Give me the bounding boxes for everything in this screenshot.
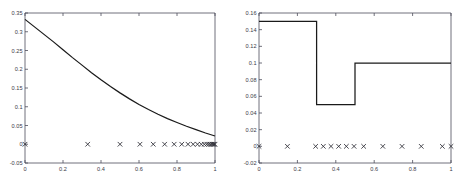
ytick-label: 0.08 [246, 77, 257, 83]
x-marker [202, 142, 207, 147]
x-marker [85, 142, 90, 147]
left-plot-panel: -0.0500.050.10.150.20.250.30.35 00.20.40… [0, 0, 232, 182]
x-marker [361, 144, 366, 149]
left-x-markers [23, 142, 218, 147]
ytick-label: 0.2 [15, 66, 23, 72]
ytick-label: 0.1 [249, 60, 257, 66]
ytick-label: 0.15 [12, 85, 23, 91]
x-marker [138, 142, 143, 147]
right-ytick-marks [259, 13, 262, 163]
right-plot-data [257, 21, 454, 148]
x-marker [285, 144, 290, 149]
ytick-label: 0.3 [15, 29, 23, 35]
x-marker [191, 142, 196, 147]
ytick-label: 0 [19, 141, 22, 147]
x-marker [440, 144, 445, 149]
ytick-label: 0.14 [246, 27, 257, 33]
xtick-label: 0.6 [135, 166, 143, 172]
left-plot-data [23, 19, 218, 146]
ytick-label: -0.05 [10, 160, 23, 166]
x-marker [352, 144, 357, 149]
x-marker [186, 142, 191, 147]
xtick-label: 0.2 [294, 166, 302, 172]
left-decaying-curve [25, 19, 215, 136]
ytick-label: 0.04 [246, 110, 257, 116]
right-plot-svg: -0.0200.020.040.060.080.10.120.140.16 00… [232, 0, 465, 182]
xtick-label: 1 [213, 166, 216, 172]
ytick-label: 0 [253, 143, 256, 149]
x-marker [179, 142, 184, 147]
ytick-label: 0.35 [12, 10, 23, 16]
right-x-markers [257, 144, 454, 149]
x-marker [400, 144, 405, 149]
x-marker [313, 144, 318, 149]
xtick-label: 0.4 [97, 166, 105, 172]
xtick-label: 0.8 [409, 166, 417, 172]
left-xtick-labels: 00.20.40.60.81 [23, 166, 216, 172]
left-ytick-labels: -0.0500.050.10.150.20.250.30.35 [10, 10, 23, 166]
xtick-label: 0.2 [59, 166, 67, 172]
x-marker [162, 142, 167, 147]
right-xtick-labels: 00.20.40.60.81 [257, 166, 452, 172]
ytick-label: 0.02 [246, 127, 257, 133]
right-step-function [259, 21, 451, 104]
ytick-label: 0.25 [12, 48, 23, 54]
xtick-label: 0.6 [370, 166, 378, 172]
left-plot-axes: -0.0500.050.10.150.20.250.30.35 00.20.40… [10, 10, 217, 172]
ytick-label: 0.12 [246, 43, 257, 49]
ytick-label: 0.06 [246, 93, 257, 99]
right-plot-panel: -0.0200.020.040.060.080.10.120.140.16 00… [232, 0, 465, 182]
left-axis-box [25, 13, 215, 163]
x-marker [329, 144, 334, 149]
x-marker [381, 144, 386, 149]
ytick-label: 0.16 [246, 10, 257, 16]
xtick-label: 0 [257, 166, 260, 172]
ytick-label: 0.1 [15, 104, 23, 110]
x-marker [344, 144, 349, 149]
xtick-label: 0.8 [173, 166, 181, 172]
right-ytick-labels: -0.0200.020.040.060.080.10.120.140.16 [244, 10, 257, 166]
x-marker [336, 144, 341, 149]
figure-root: -0.0500.050.10.150.20.250.30.35 00.20.40… [0, 0, 465, 182]
x-marker [419, 144, 424, 149]
x-marker [118, 142, 123, 147]
ytick-label: 0.05 [12, 123, 23, 129]
xtick-label: 1 [449, 166, 452, 172]
left-ytick-marks [25, 13, 28, 163]
ytick-label: -0.02 [244, 160, 257, 166]
xtick-label: 0 [23, 166, 26, 172]
left-xtick-marks [25, 13, 215, 163]
x-marker [321, 144, 326, 149]
xtick-label: 0.4 [332, 166, 340, 172]
x-marker [151, 142, 156, 147]
left-plot-svg: -0.0500.050.10.150.20.250.30.35 00.20.40… [0, 0, 232, 182]
x-marker [172, 142, 177, 147]
